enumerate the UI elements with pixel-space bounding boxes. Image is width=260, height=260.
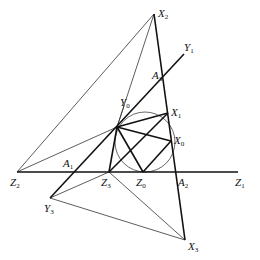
incircle — [115, 112, 175, 172]
line-Z3-X3 — [109, 172, 185, 240]
label-X1: X1 — [171, 107, 181, 120]
label-A3: A3 — [152, 70, 162, 83]
label-X2: X2 — [158, 8, 168, 21]
line-P-Z0 — [117, 127, 143, 172]
line-Y3-Y1 — [50, 54, 184, 198]
label-Y3: Y3 — [44, 203, 54, 216]
line-P-X0 — [117, 127, 171, 141]
label-Z1: Z1 — [235, 177, 245, 190]
label-A1: A1 — [63, 158, 73, 171]
label-Z2: Z2 — [10, 177, 20, 190]
diagram-canvas — [0, 0, 260, 260]
label-Y1: Y1 — [184, 42, 194, 55]
label-Y0: Y0 — [120, 97, 130, 110]
geometry-diagram: X2 Y1 A3 Y0 X1 X0 A1 Z2 Z3 Z0 A2 Z1 Y3 X… — [0, 0, 260, 260]
label-A2: A2 — [178, 177, 188, 190]
label-Z3: Z3 — [101, 177, 111, 190]
line-X2-X3 — [154, 14, 185, 240]
line-Z0-X0 — [143, 141, 171, 172]
label-X3: X3 — [188, 241, 198, 254]
label-Z0: Z0 — [136, 177, 146, 190]
label-X0: X0 — [174, 135, 184, 148]
line-Y3-X3 — [50, 198, 185, 240]
